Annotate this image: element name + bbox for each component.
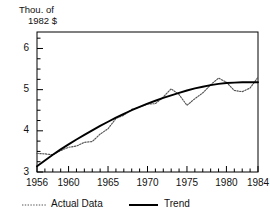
x-tick-label-1965: 1965 <box>91 177 125 188</box>
x-tick-label-1984: 1984 <box>241 177 270 188</box>
x-tick-label-1956: 1956 <box>20 177 54 188</box>
x-tick-label-1980: 1980 <box>209 177 243 188</box>
legend-label-actual-data: Actual Data <box>51 198 103 209</box>
y-tick-label-5: 5 <box>13 83 29 94</box>
y-tick-label-4: 4 <box>13 124 29 135</box>
y-tick-label-6: 6 <box>13 42 29 53</box>
y-axis-minor-ticks <box>37 38 41 162</box>
legend-swatches <box>0 196 270 214</box>
y-tick-label-3: 3 <box>13 166 29 177</box>
chart-figure: Thou. of 1982 $ 3456 1956196019651970197… <box>0 0 270 221</box>
series-line-trend <box>37 82 258 166</box>
y-axis-title-line-1: Thou. of <box>19 4 54 15</box>
y-axis-title-line-2: 1982 $ <box>28 15 57 26</box>
x-tick-label-1970: 1970 <box>131 177 165 188</box>
chart-legend: Actual Data Trend <box>0 196 270 214</box>
plot-frame <box>37 32 258 172</box>
x-axis-major-ticks <box>37 166 258 172</box>
legend-label-trend: Trend <box>164 198 190 209</box>
x-tick-label-1975: 1975 <box>170 177 204 188</box>
x-tick-label-1960: 1960 <box>52 177 86 188</box>
